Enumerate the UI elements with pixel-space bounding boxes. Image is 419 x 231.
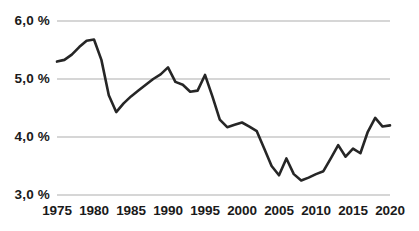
x-axis-tick-label: 1975 <box>42 204 72 218</box>
x-axis-tick-label: 1985 <box>116 204 146 218</box>
x-axis-tick-label: 1990 <box>153 204 183 218</box>
x-axis-tick-label: 2000 <box>227 204 257 218</box>
x-axis-tick-label: 2010 <box>301 204 331 218</box>
y-axis-tick-label: 6,0 % <box>0 14 50 28</box>
y-axis-tick-label: 3,0 % <box>0 188 50 202</box>
y-axis-tick-label: 4,0 % <box>0 130 50 144</box>
x-axis-tick-label: 2005 <box>264 204 294 218</box>
x-axis-tick-label: 1995 <box>190 204 220 218</box>
x-axis-tick-label: 2020 <box>375 204 405 218</box>
x-axis-tick-label: 1980 <box>79 204 109 218</box>
line-chart: 6,0 %5,0 %4,0 %3,0 % 1975198019851990199… <box>0 0 419 231</box>
chart-canvas <box>0 0 419 231</box>
x-axis-tick-label: 2015 <box>338 204 368 218</box>
chart-background <box>0 0 419 231</box>
y-axis-tick-label: 5,0 % <box>0 72 50 86</box>
